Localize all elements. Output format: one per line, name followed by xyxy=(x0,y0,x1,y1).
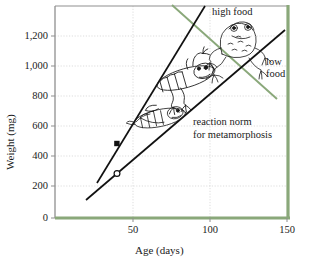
reaction-norm-label-line1: reaction norm xyxy=(193,116,252,128)
plot-area xyxy=(55,6,288,218)
x-tick-label-150: 150 xyxy=(267,224,307,236)
low-food-label-line2: food xyxy=(266,68,285,80)
y-tick-label-1200: 1,200 xyxy=(6,30,48,42)
reaction-norm-chart: 1,200 1,000 800 600 400 200 0 50 100 150… xyxy=(0,0,315,265)
reaction-norm-label-line2: for metamorphosis xyxy=(193,129,272,141)
y-tick-label-200: 200 xyxy=(6,180,48,192)
high-food-label: high food xyxy=(212,6,253,18)
y-tick-label-800: 800 xyxy=(6,90,48,102)
high-food-metamorphosis-marker xyxy=(114,141,119,146)
x-axis-label: Age (days) xyxy=(135,244,184,256)
y-tick-label-1000: 1,000 xyxy=(6,60,48,72)
y-tick-label-0: 0 xyxy=(6,212,48,224)
low-food-metamorphosis-marker xyxy=(114,171,120,177)
x-tick-label-100: 100 xyxy=(190,224,230,236)
x-tick-label-50: 50 xyxy=(113,224,153,236)
y-axis-label: Weight (mg) xyxy=(4,114,16,170)
low-food-label-line1: low xyxy=(266,56,282,68)
